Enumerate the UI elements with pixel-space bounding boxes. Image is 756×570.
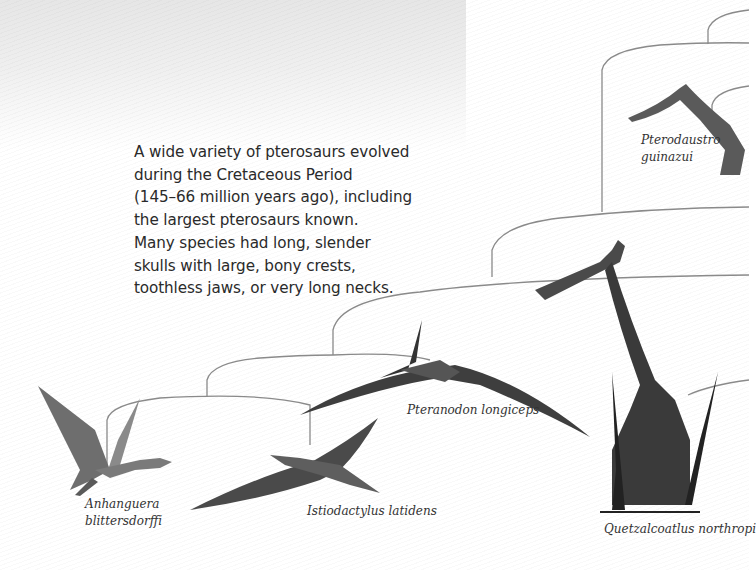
branch-node-2 <box>207 355 333 397</box>
label-pteranodon: Pteranodon longiceps <box>407 402 539 419</box>
anhanguera-illustration <box>38 386 172 496</box>
label-pterodaustro-genus: Pterodaustro <box>641 132 720 149</box>
intro-paragraph: A wide variety of pterosaurs evolved dur… <box>134 141 394 300</box>
branch-node-3 <box>333 275 749 355</box>
intro-line-3: (145–66 million years ago), including <box>134 186 394 209</box>
intro-line-4: the largest pterosaurs known. <box>134 209 394 232</box>
pteranodon-illustration <box>300 320 590 437</box>
intro-line-5: Many species had long, slender <box>134 232 394 255</box>
label-quetzalcoatlus: Quetzalcoatlus northropi <box>604 521 756 538</box>
label-pterodaustro: Pterodaustro guinazui <box>641 132 720 166</box>
label-istiodactylus: Istiodactylus latidens <box>307 503 437 520</box>
quetzalcoatlus-illustration <box>535 240 718 512</box>
intro-line-6: skulls with large, bony crests, <box>134 255 394 278</box>
label-pterodaustro-species: guinazui <box>641 149 720 166</box>
branch-quetzalcoatlus-sister <box>688 380 749 395</box>
intro-line-2: during the Cretaceous Period <box>134 164 394 187</box>
label-anhanguera: Anhanguera blittersdorffi <box>85 496 162 530</box>
intro-line-7: toothless jaws, or very long necks. <box>134 277 394 300</box>
intro-line-1: A wide variety of pterosaurs evolved <box>134 141 394 164</box>
istiodactylus-illustration <box>190 418 380 510</box>
label-anhanguera-species: blittersdorffi <box>85 513 162 530</box>
branch-node-6 <box>708 10 749 44</box>
branch-node-4 <box>492 207 749 277</box>
label-anhanguera-genus: Anhanguera <box>85 496 162 513</box>
